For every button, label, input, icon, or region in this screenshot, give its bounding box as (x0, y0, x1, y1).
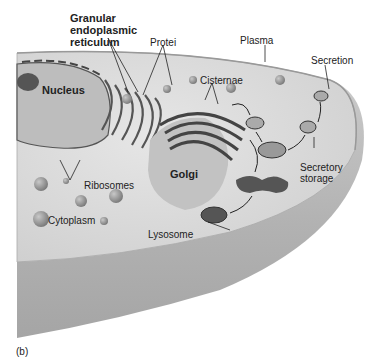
label-granular-er-line3: reticulum (70, 36, 137, 48)
label-secretion: Secretion (311, 55, 353, 66)
label-proteins: Protei (150, 37, 176, 48)
label-cisternae: Cisternae (200, 75, 243, 86)
label-nucleus: Nucleus (42, 84, 85, 96)
label-plasma: Plasma (240, 35, 273, 46)
lysosome (201, 207, 227, 223)
label-lysosome: Lysosome (148, 229, 193, 240)
label-granular-er-line1: Granular (70, 12, 137, 24)
label-cytoplasm: Cytoplasm (48, 215, 95, 226)
label-granular-er-line2: endoplasmic (70, 24, 137, 36)
nucleolus (17, 73, 39, 91)
label-ribosomes: Ribosomes (84, 180, 134, 191)
label-secretory-line1: Secretory (300, 162, 343, 173)
label-storage-line2: storage (300, 173, 343, 184)
figure-label: (b) (16, 346, 28, 357)
label-golgi: Golgi (170, 168, 198, 180)
label-secretory-storage: Secretory storage (300, 162, 343, 184)
label-granular-er: Granular endoplasmic reticulum (70, 12, 137, 48)
